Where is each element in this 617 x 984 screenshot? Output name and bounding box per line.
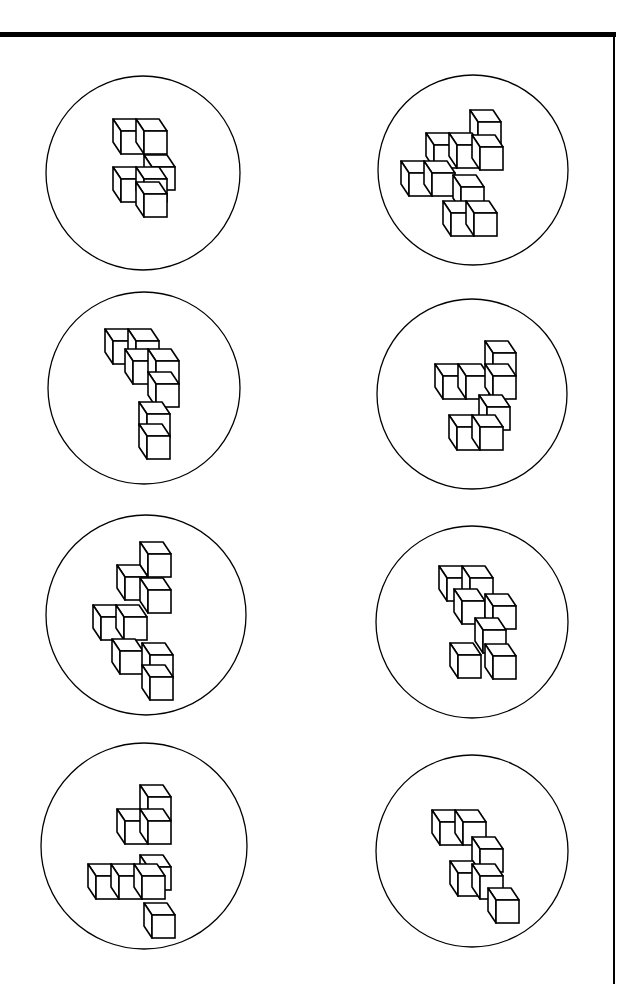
cube-puzzle-sheet [0,0,617,984]
cube-figure-3 [48,292,240,484]
cube-figure-4 [377,299,567,489]
cube-figure-8 [376,755,568,947]
cube [140,578,171,613]
cube-figure-2 [378,75,568,265]
cube-figure-1 [46,76,240,270]
cube [144,903,175,938]
cube [466,201,497,236]
cube [139,424,170,459]
cube [424,161,455,196]
cube [116,605,147,640]
cube [142,665,173,700]
cube-figure-5 [46,515,246,715]
cube [136,119,167,154]
cube [472,135,503,170]
cube [134,864,165,899]
cube [112,639,143,674]
cube [485,364,516,399]
cube [450,643,481,678]
cube-figure-6 [376,526,568,718]
cube [472,415,503,450]
cube [140,809,171,844]
cube [485,644,516,679]
cube [488,888,519,923]
cube [136,182,167,217]
cube-figure-7 [41,743,247,949]
